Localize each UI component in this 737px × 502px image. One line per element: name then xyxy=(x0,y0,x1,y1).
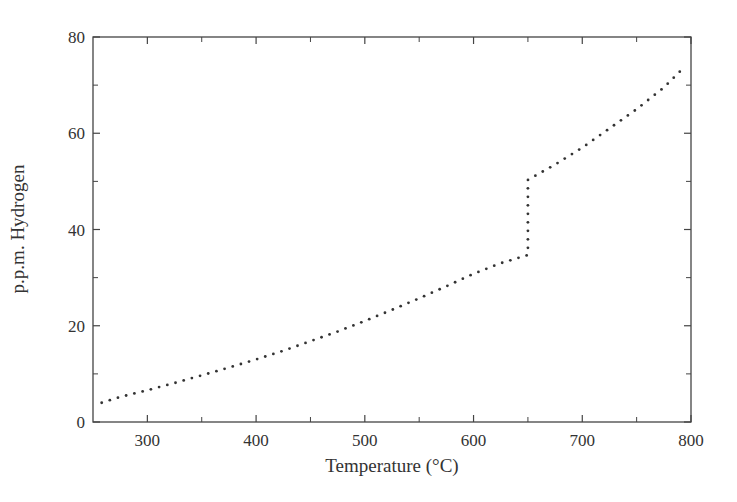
data-point xyxy=(563,157,566,160)
data-point xyxy=(207,372,210,375)
data-point xyxy=(304,342,307,345)
data-point xyxy=(407,301,410,304)
y-axis-label: p.p.m. Hydrogen xyxy=(7,164,28,293)
data-point xyxy=(133,392,136,395)
data-point xyxy=(501,261,504,264)
data-point xyxy=(312,339,315,342)
data-point xyxy=(672,76,675,79)
y-tick-label: 40 xyxy=(68,221,85,240)
data-point xyxy=(166,384,169,387)
data-point xyxy=(415,298,418,301)
data-point xyxy=(541,170,544,173)
data-point xyxy=(653,93,656,96)
x-tick-label: 700 xyxy=(570,431,596,450)
data-point xyxy=(108,399,111,402)
data-point xyxy=(509,259,512,262)
data-point xyxy=(158,386,161,389)
data-point xyxy=(288,347,291,350)
plot-frame xyxy=(93,37,691,422)
data-point xyxy=(438,288,441,291)
data-point xyxy=(633,109,636,112)
data-point xyxy=(360,321,363,324)
data-point xyxy=(376,315,379,318)
data-point xyxy=(446,284,449,287)
data-series xyxy=(100,70,681,404)
data-point xyxy=(606,129,609,132)
data-point xyxy=(493,264,496,267)
x-tick-label: 600 xyxy=(461,431,487,450)
data-point xyxy=(461,277,464,280)
data-point xyxy=(368,318,371,321)
data-point xyxy=(527,178,530,181)
data-point xyxy=(527,212,530,215)
data-point xyxy=(248,360,251,363)
data-point xyxy=(190,377,193,380)
data-point xyxy=(280,350,283,353)
hydrogen-chart: 300400500600700800020406080 Temperature … xyxy=(0,0,737,502)
data-point xyxy=(485,267,488,270)
data-point xyxy=(296,344,299,347)
data-point xyxy=(215,370,218,373)
data-point xyxy=(525,254,528,257)
x-tick-label: 400 xyxy=(243,431,269,450)
data-point xyxy=(391,308,394,311)
data-point xyxy=(592,139,595,142)
data-point xyxy=(517,256,520,259)
data-point xyxy=(223,367,226,370)
data-point xyxy=(430,291,433,294)
x-tick-label: 500 xyxy=(352,431,378,450)
data-point xyxy=(469,274,472,277)
data-point xyxy=(647,99,650,102)
data-point xyxy=(578,148,581,151)
data-point xyxy=(666,82,669,85)
data-point xyxy=(182,379,185,382)
data-point xyxy=(256,358,259,361)
y-tick-label: 0 xyxy=(77,413,86,432)
y-tick-label: 80 xyxy=(68,28,85,47)
data-point xyxy=(100,401,103,404)
data-point xyxy=(556,162,559,165)
data-point xyxy=(117,396,120,399)
x-tick-label: 800 xyxy=(678,431,704,450)
axis-ticks xyxy=(93,37,691,422)
data-point xyxy=(199,374,202,377)
x-tick-label: 300 xyxy=(135,431,161,450)
data-point xyxy=(344,327,347,330)
data-point xyxy=(174,381,177,384)
data-point xyxy=(352,324,355,327)
data-point xyxy=(620,119,623,122)
data-point xyxy=(264,355,267,358)
data-point xyxy=(599,134,602,137)
data-point xyxy=(549,166,552,169)
data-point xyxy=(454,281,457,284)
data-point xyxy=(527,246,530,249)
y-tick-label: 60 xyxy=(68,124,85,143)
data-point xyxy=(423,295,426,298)
data-point xyxy=(527,195,530,198)
data-point xyxy=(534,174,537,177)
data-point xyxy=(527,229,530,232)
data-point xyxy=(571,153,574,156)
data-point xyxy=(613,124,616,127)
chart-container: 300400500600700800020406080 Temperature … xyxy=(0,0,737,502)
data-point xyxy=(660,88,663,91)
data-point xyxy=(678,70,681,73)
data-point xyxy=(477,270,480,273)
data-point xyxy=(320,336,323,339)
data-point xyxy=(640,104,643,107)
data-point xyxy=(527,221,530,224)
data-point xyxy=(527,204,530,207)
data-point xyxy=(585,143,588,146)
data-point xyxy=(527,238,530,241)
data-point xyxy=(328,333,331,336)
tick-labels: 300400500600700800020406080 xyxy=(68,28,704,450)
plot-border xyxy=(93,37,691,422)
data-point xyxy=(141,390,144,393)
data-point xyxy=(336,330,339,333)
data-point xyxy=(149,388,152,391)
data-point xyxy=(527,187,530,190)
data-point xyxy=(239,363,242,366)
y-tick-label: 20 xyxy=(68,317,85,336)
x-axis-label: Temperature (°C) xyxy=(325,455,458,477)
data-point xyxy=(125,394,128,397)
